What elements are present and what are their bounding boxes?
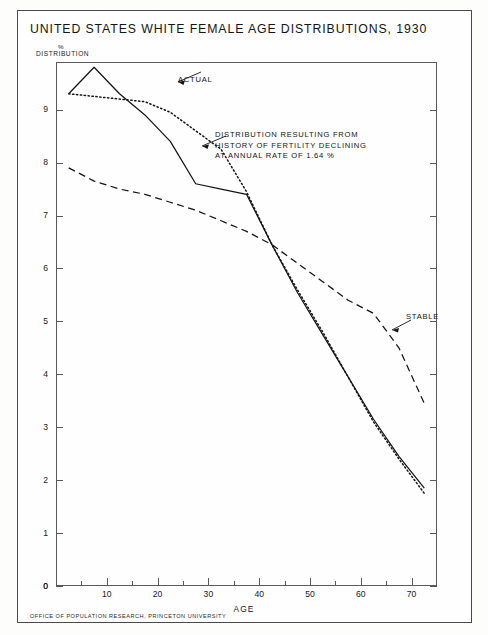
x-tick-label: 50: [298, 589, 322, 599]
annotation-declining-line2: HISTORY OF FERTILITY DECLINING: [215, 141, 367, 152]
x-tick-mark-minor: [335, 581, 336, 586]
y-tick-mark-right: [430, 480, 437, 481]
y-tick-mark-right: [430, 533, 437, 534]
annotation-declining-line3: AT ANNUAL RATE OF 1.64 %: [215, 151, 367, 162]
annotation-actual: ACTUAL: [178, 75, 212, 86]
y-tick-mark: [56, 268, 63, 269]
y-tick-label: 6: [32, 263, 48, 273]
chart-figure: UNITED STATES WHITE FEMALE AGE DISTRIBUT…: [0, 0, 488, 635]
x-tick-mark-minor: [386, 581, 387, 586]
y-tick-label: 1: [32, 528, 48, 538]
leader-arrow-stable: [392, 328, 399, 333]
x-tick-label: 40: [247, 589, 271, 599]
y-tick-mark: [56, 533, 63, 534]
x-tick-mark-major: [310, 578, 311, 586]
y-tick-mark-right: [430, 163, 437, 164]
y-tick-mark-right: [430, 110, 437, 111]
y-tick-label: 5: [32, 316, 48, 326]
x-tick-label: 20: [146, 589, 170, 599]
y-tick-mark-right: [430, 586, 437, 587]
annotation-stable: STABLE: [406, 312, 439, 323]
y-tick-label: 8: [32, 157, 48, 167]
y-tick-mark: [56, 163, 63, 164]
x-tick-label: 70: [400, 589, 424, 599]
x-tick-label: 10: [95, 589, 119, 599]
x-tick-label: 30: [196, 589, 220, 599]
x-tick-mark-minor: [183, 581, 184, 586]
annotation-declining: DISTRIBUTION RESULTING FROM HISTORY OF F…: [215, 130, 367, 162]
y-tick-mark: [56, 216, 63, 217]
y-axis-label-distribution: DISTRIBUTION: [36, 50, 89, 57]
y-tick-mark: [56, 374, 63, 375]
x-tick-mark-major: [107, 578, 108, 586]
y-tick-mark-right: [430, 427, 437, 428]
y-tick-label: 2: [32, 475, 48, 485]
x-tick-mark-major: [56, 578, 57, 586]
x-tick-mark-major: [361, 578, 362, 586]
y-tick-mark: [56, 586, 63, 587]
x-tick-mark-major: [158, 578, 159, 586]
x-tick-label: 60: [349, 589, 373, 599]
source-credit: OFFICE OF POPULATION RESEARCH, PRINCETON…: [30, 613, 226, 619]
y-tick-label: 9: [32, 104, 48, 114]
y-axis-label-percent: %: [58, 43, 89, 50]
x-tick-mark-major: [208, 578, 209, 586]
y-tick-mark: [56, 427, 63, 428]
x-tick-mark-minor: [285, 581, 286, 586]
x-tick-mark-minor: [81, 581, 82, 586]
x-tick-mark-minor: [234, 581, 235, 586]
y-tick-mark-right: [430, 216, 437, 217]
y-tick-mark-right: [430, 268, 437, 269]
series-line-2: [69, 168, 425, 404]
x-tick-mark-minor: [132, 581, 133, 586]
y-tick-label: 3: [32, 422, 48, 432]
y-tick-mark: [56, 110, 63, 111]
leader-lines: [178, 72, 411, 333]
y-tick-mark-right: [430, 374, 437, 375]
y-tick-label: 7: [32, 210, 48, 220]
y-tick-mark: [56, 480, 63, 481]
y-tick-mark: [56, 321, 63, 322]
annotation-declining-line1: DISTRIBUTION RESULTING FROM: [215, 130, 367, 141]
y-axis-label: % DISTRIBUTION: [36, 43, 89, 58]
origin-label: 0: [32, 581, 48, 591]
chart-title: UNITED STATES WHITE FEMALE AGE DISTRIBUT…: [30, 22, 427, 36]
x-tick-mark-major: [412, 578, 413, 586]
x-tick-mark-major: [259, 578, 260, 586]
y-tick-label: 4: [32, 369, 48, 379]
